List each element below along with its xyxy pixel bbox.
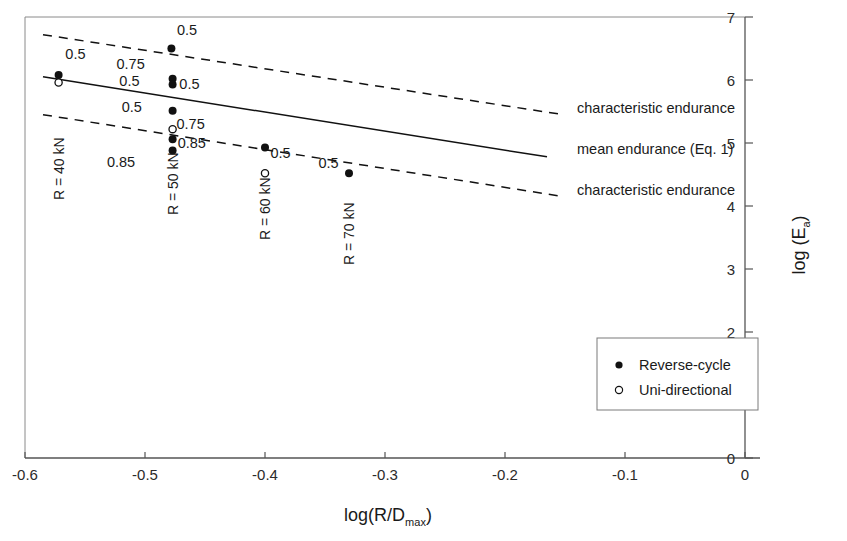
x-title-sub: max bbox=[405, 516, 426, 528]
data-point-open-circle bbox=[261, 170, 268, 177]
line-annotation: characteristic endurance bbox=[577, 182, 735, 198]
x-title-end: ) bbox=[426, 505, 432, 525]
legend-marker-open-circle bbox=[615, 386, 622, 393]
point-value-label: 0.5 bbox=[271, 145, 291, 161]
data-point-filled-circle bbox=[169, 135, 177, 143]
data-point-filled-circle bbox=[345, 169, 353, 177]
chart-legend[interactable]: Reverse-cycle Uni-directional bbox=[597, 338, 758, 410]
chart-figure: -0.6-0.5-0.4-0.3-0.2-0.10 01234567 0.50.… bbox=[0, 0, 847, 541]
y-title-end: ) bbox=[789, 215, 809, 221]
point-value-label: 0.5 bbox=[319, 155, 339, 171]
line-annotation: mean endurance (Eq. 1) bbox=[577, 141, 733, 157]
y-tick-label: 3 bbox=[727, 261, 735, 278]
data-point-open-circle bbox=[169, 126, 176, 133]
data-point-filled-circle bbox=[169, 80, 177, 88]
y-tick-label: 6 bbox=[727, 72, 735, 89]
x-tick-label: -0.4 bbox=[252, 466, 278, 483]
data-point-filled-circle bbox=[169, 107, 177, 115]
point-value-label: 0.5 bbox=[179, 76, 199, 92]
x-tick-label: -0.1 bbox=[612, 466, 638, 483]
x-tick-label: -0.5 bbox=[132, 466, 158, 483]
group-label: R = 40 kN bbox=[51, 137, 67, 200]
x-tick-label: -0.6 bbox=[12, 466, 38, 483]
data-point-filled-circle bbox=[261, 143, 269, 151]
x-tick-label: -0.2 bbox=[492, 466, 518, 483]
data-point-filled-circle bbox=[167, 45, 175, 53]
legend-label-reverse-cycle: Reverse-cycle bbox=[639, 357, 731, 373]
data-point-open-circle bbox=[55, 79, 62, 86]
legend-box bbox=[597, 338, 758, 410]
point-value-label: 0.5 bbox=[122, 99, 142, 115]
y-tick-label: 0 bbox=[727, 450, 735, 467]
x-tick-label: 0 bbox=[741, 466, 749, 483]
line-annotation: characteristic endurance bbox=[577, 100, 735, 116]
y-tick-label: 7 bbox=[727, 9, 735, 26]
group-label: R = 70 kN bbox=[341, 202, 357, 265]
point-value-label: 0.85 bbox=[178, 135, 206, 151]
x-title-main: log(R/D bbox=[344, 505, 405, 525]
group-label: R = 50 kN bbox=[165, 152, 181, 215]
point-value-label: 0.75 bbox=[116, 56, 144, 72]
group-label: R = 60 kN bbox=[257, 177, 273, 240]
point-value-label: 0.5 bbox=[65, 46, 85, 62]
point-value-label: 0.85 bbox=[107, 154, 135, 170]
point-value-label: 0.5 bbox=[177, 22, 197, 38]
y-title-main: log (E bbox=[789, 228, 809, 275]
legend-marker-filled-circle bbox=[615, 361, 622, 368]
chart-canvas: -0.6-0.5-0.4-0.3-0.2-0.10 01234567 0.50.… bbox=[0, 0, 847, 541]
data-point-filled-circle bbox=[55, 71, 63, 79]
line-annotations: characteristic endurancemean endurance (… bbox=[577, 100, 735, 198]
legend-label-uni-directional: Uni-directional bbox=[639, 382, 732, 398]
x-tick-label: -0.3 bbox=[372, 466, 398, 483]
y-tick-label: 4 bbox=[727, 198, 735, 215]
point-value-label: 0.5 bbox=[119, 73, 139, 89]
point-value-label: 0.75 bbox=[176, 116, 204, 132]
